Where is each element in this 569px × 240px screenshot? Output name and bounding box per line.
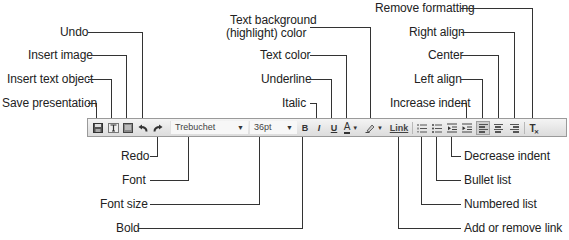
leader-remove-format-v	[532, 8, 533, 118]
leader-save-v	[96, 103, 97, 118]
link-button[interactable]: Link	[388, 121, 410, 135]
remove-formatting-button[interactable]: T ✕	[528, 121, 540, 135]
leader-link-h	[398, 228, 461, 229]
align-left-icon	[479, 124, 488, 133]
text-color-button[interactable]: A ▼	[341, 121, 361, 135]
right-align-button[interactable]	[508, 121, 520, 135]
text-color-icon: A	[344, 122, 351, 134]
center-align-button[interactable]	[492, 121, 504, 135]
numbered-list-button[interactable]	[416, 121, 428, 135]
callout-insert-image: Insert image	[28, 48, 93, 62]
leader-font-v	[188, 137, 189, 181]
callout-numbered-list: Numbered list	[464, 197, 537, 211]
leader-right-align-v	[514, 32, 515, 118]
leader-text-bg-v	[370, 27, 371, 118]
image-icon	[123, 123, 133, 133]
numbered-list-icon	[417, 123, 427, 133]
font-size-select[interactable]: 36pt ▼	[249, 121, 297, 134]
callout-insert-text-object: Insert text object	[7, 72, 93, 86]
bold-button[interactable]: B	[299, 121, 311, 135]
callout-remove-formatting: Remove formatting	[375, 1, 475, 15]
underline-button[interactable]: U	[328, 121, 340, 135]
italic-button[interactable]: I	[313, 121, 325, 135]
callout-italic: Italic	[282, 96, 306, 110]
decrease-indent-icon	[447, 123, 457, 133]
callout-right-align: Right align	[409, 25, 465, 39]
callout-font-size: Font size	[100, 197, 148, 211]
left-align-button[interactable]	[476, 121, 490, 135]
leader-insert-image-v	[126, 55, 127, 118]
callout-bullet-list: Bullet list	[464, 173, 511, 187]
leader-numbered-list-h	[421, 204, 461, 205]
leader-text-color-h	[310, 55, 347, 56]
leader-font-h	[150, 180, 189, 181]
undo-arrow-icon	[138, 124, 148, 133]
font-size-select-value: 36pt	[254, 122, 272, 132]
text-box-icon	[108, 123, 119, 133]
leader-decrease-indent-v	[451, 137, 452, 157]
callout-underline: Underline	[261, 72, 311, 86]
callout-bold: Bold	[116, 221, 140, 235]
italic-icon: I	[318, 123, 321, 133]
decrease-indent-button[interactable]	[446, 121, 458, 135]
underline-icon: U	[331, 123, 338, 133]
callout-redo: Redo	[121, 149, 149, 163]
leader-text-bg-h	[310, 27, 371, 28]
callout-undo: Undo	[60, 25, 88, 39]
leader-redo-h	[150, 156, 158, 157]
leader-bullet-list-v	[436, 137, 437, 181]
callout-save-presentation: Save presentation	[2, 96, 97, 110]
leader-font-size-h	[150, 204, 260, 205]
leader-center-h	[461, 55, 499, 56]
bold-icon: B	[302, 123, 309, 133]
remove-formatting-icon: T	[529, 123, 535, 134]
leader-center-v	[498, 55, 499, 118]
chevron-down-icon: ▼	[286, 121, 293, 134]
leader-left-align-v	[482, 79, 483, 118]
leader-redo-v	[157, 137, 158, 157]
link-label: Link	[390, 123, 409, 133]
callout-left-align: Left align	[414, 72, 462, 86]
chevron-down-icon: ▼	[237, 121, 244, 134]
increase-indent-icon	[462, 123, 472, 133]
floppy-disk-icon	[93, 123, 103, 133]
leader-right-align-h	[461, 32, 515, 33]
redo-button[interactable]	[152, 121, 164, 135]
insert-text-object-button[interactable]	[107, 121, 119, 135]
leader-left-align-h	[461, 79, 483, 80]
leader-font-size-v	[259, 137, 260, 205]
callout-text-background-line1: Text background	[230, 13, 317, 27]
undo-button[interactable]	[137, 121, 149, 135]
toolbar-separator	[524, 122, 525, 134]
leader-remove-format-h	[461, 8, 533, 9]
leader-bold-h	[138, 228, 303, 229]
leader-link-v	[398, 137, 399, 229]
leader-italic-v	[316, 103, 317, 118]
leader-bullet-list-h	[436, 180, 461, 181]
callout-decrease-indent: Decrease indent	[464, 149, 550, 163]
bullet-list-button[interactable]	[431, 121, 443, 135]
font-select[interactable]: Trebuchet ▼	[170, 121, 248, 134]
formatting-toolbar: Trebuchet ▼ 36pt ▼ B I U A ▼ ▼ Link	[87, 118, 567, 137]
leader-decrease-indent-h	[451, 156, 461, 157]
chevron-down-icon: ▼	[352, 125, 358, 131]
leader-increase-indent-v	[466, 103, 467, 118]
redo-arrow-icon	[153, 124, 163, 133]
insert-image-button[interactable]	[122, 121, 134, 135]
font-select-value: Trebuchet	[175, 122, 215, 132]
bullet-list-icon	[432, 123, 442, 133]
highlight-color-button[interactable]: ▼	[364, 121, 384, 135]
leader-undo-h	[88, 32, 143, 33]
save-button[interactable]	[92, 121, 104, 135]
chevron-down-icon: ▼	[377, 125, 383, 131]
callout-text-background-line2: (highlight) color	[226, 26, 306, 40]
leader-bold-v	[302, 137, 303, 229]
leader-numbered-list-v	[421, 137, 422, 205]
leader-insert-text-h	[88, 79, 112, 80]
callout-add-remove-link: Add or remove link	[464, 221, 562, 235]
increase-indent-button[interactable]	[461, 121, 473, 135]
callout-center: Center	[428, 48, 463, 62]
leader-underline-v	[331, 79, 332, 118]
leader-insert-text-v	[111, 79, 112, 118]
callout-text-color: Text color	[260, 48, 310, 62]
